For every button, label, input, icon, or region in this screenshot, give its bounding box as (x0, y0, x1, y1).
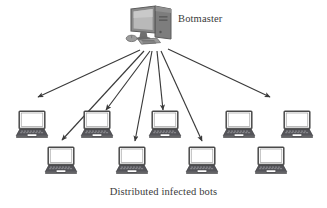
botmaster-label: Botmaster (178, 13, 223, 24)
command-arrow-4 (135, 51, 152, 141)
bot-laptop-7 (116, 147, 148, 174)
bot-laptop-2 (81, 111, 113, 138)
bot-laptop-1 (16, 111, 48, 138)
bot-row-top (16, 111, 313, 138)
botnet-diagram: Botmaster Distributed infected bots (0, 0, 327, 208)
bot-laptop-9 (255, 147, 287, 174)
desktop-computer-icon (126, 6, 171, 44)
command-arrow-3 (106, 51, 150, 110)
distributed-infected-bots-caption: Distributed infected bots (0, 186, 327, 197)
bot-laptop-6 (45, 147, 77, 174)
bot-laptop-4 (223, 111, 255, 138)
botnet-graphic (0, 0, 327, 208)
command-arrow-1 (38, 50, 140, 97)
bot-row-bottom (45, 147, 287, 174)
bot-laptop-8 (186, 147, 218, 174)
command-arrow-7 (168, 49, 270, 97)
botmaster-computer (126, 6, 171, 44)
bot-laptop-5 (281, 111, 313, 138)
bot-laptop-3 (149, 111, 181, 138)
command-arrow-5 (157, 51, 163, 110)
